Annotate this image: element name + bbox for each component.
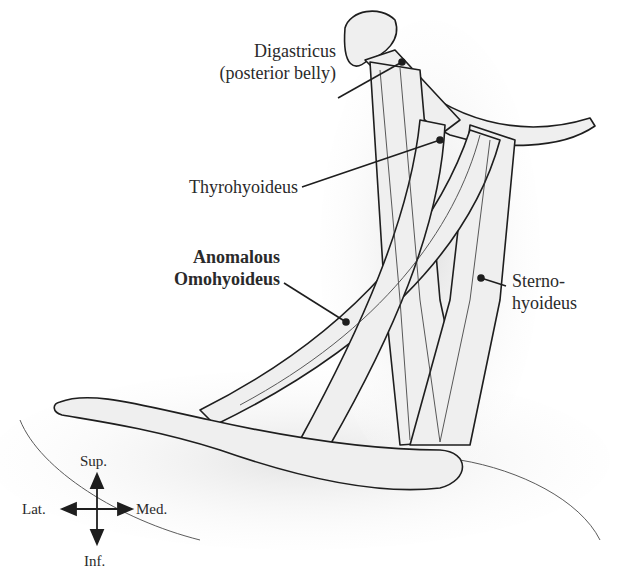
anatomy-figure: Digastricus (posterior belly) Thyrohyoid… (0, 0, 617, 584)
leader-dot (343, 319, 349, 325)
label-digastricus: Digastricus (posterior belly) (180, 40, 336, 84)
label-digastricus-line1: Digastricus (180, 40, 336, 62)
label-anomalous-line2: Omohyoideus (120, 268, 280, 290)
label-inferior: Inf. (84, 552, 105, 570)
label-digastricus-line2: (posterior belly) (180, 62, 336, 84)
arrow-down-icon (91, 530, 103, 544)
label-sterno-line1: Sterno- (512, 270, 577, 292)
label-anomalous-omohyoideus: Anomalous Omohyoideus (120, 246, 280, 290)
label-medial: Med. (136, 500, 167, 518)
label-sterno-line2: hyoideus (512, 292, 577, 314)
label-superior: Sup. (80, 452, 107, 470)
label-sternohyoideus: Sterno- hyoideus (512, 270, 577, 314)
leader-dot (478, 275, 484, 281)
label-anomalous-line1: Anomalous (120, 246, 280, 268)
label-lateral: Lat. (22, 500, 46, 518)
leader-dot (399, 59, 405, 65)
label-thyrohyoideus: Thyrohyoideus (140, 176, 298, 198)
leader-dot (437, 137, 443, 143)
